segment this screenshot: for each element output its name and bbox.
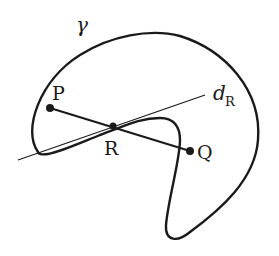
label-d: d [213,81,226,105]
label-d-subscript: R [225,94,236,109]
point-q [186,147,194,155]
label-p: P [52,82,65,104]
diagram-svg: γ P R Q d R [0,0,279,256]
label-r: R [104,137,119,159]
segment-pq [50,108,190,151]
point-p [46,104,54,112]
curve-gamma [32,33,258,239]
point-r [110,123,117,130]
diagram-canvas: γ P R Q d R [0,0,279,256]
label-q: Q [197,141,213,163]
label-gamma: γ [76,13,88,37]
